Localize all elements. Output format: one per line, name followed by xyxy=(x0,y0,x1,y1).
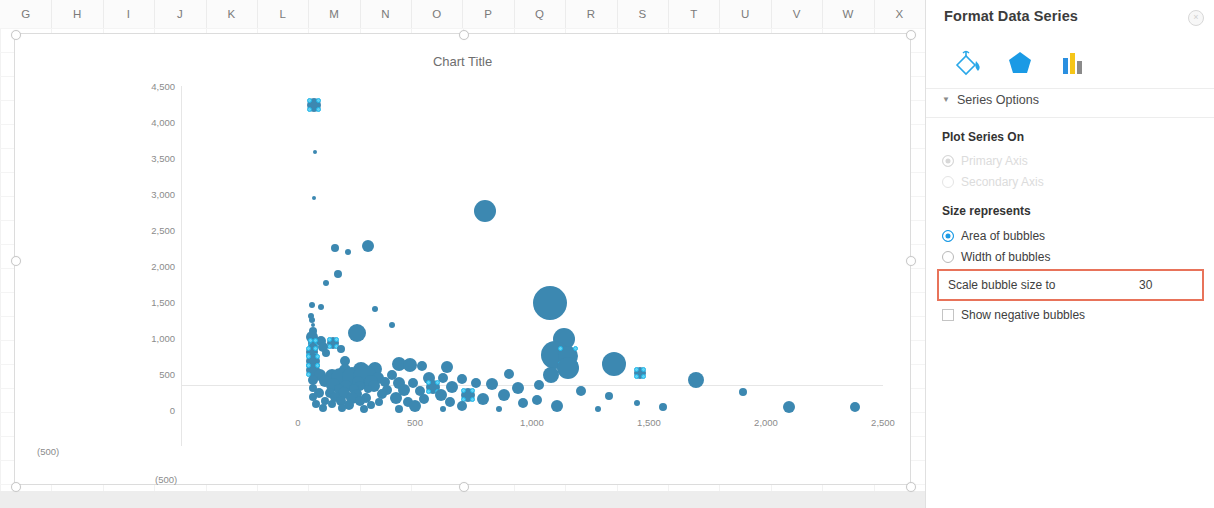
column-header-G[interactable]: G xyxy=(0,0,52,28)
close-icon[interactable]: × xyxy=(1188,10,1204,26)
chart-bubble[interactable] xyxy=(605,392,613,400)
column-header-I[interactable]: I xyxy=(103,0,155,28)
chart-bubble[interactable] xyxy=(602,352,626,376)
column-header-Q[interactable]: Q xyxy=(514,0,566,28)
resize-handle-mr[interactable] xyxy=(906,256,916,266)
chart-bubble[interactable] xyxy=(362,240,374,252)
chart-bubble[interactable] xyxy=(446,381,458,393)
column-header-V[interactable]: V xyxy=(771,0,823,28)
chart-bubble[interactable] xyxy=(850,402,860,412)
chart-bubble[interactable] xyxy=(313,150,317,154)
chart-bubble[interactable] xyxy=(486,378,498,390)
chart-title[interactable]: Chart Title xyxy=(15,54,910,69)
chart-bubble[interactable] xyxy=(576,386,586,396)
chart-bubble[interactable] xyxy=(372,306,378,312)
scale-bubble-size-field[interactable]: Scale bubble size to 30 xyxy=(937,269,1204,301)
chart-bubble[interactable] xyxy=(345,249,351,255)
chart-bubble[interactable] xyxy=(512,382,524,394)
chart-bubble[interactable] xyxy=(688,372,704,388)
chart-bubble[interactable] xyxy=(457,374,467,384)
chart-bubble[interactable] xyxy=(309,302,315,308)
chart-bubble[interactable] xyxy=(334,270,342,278)
chart-bubble[interactable] xyxy=(440,406,446,412)
chart-bubble[interactable] xyxy=(395,405,403,413)
chart-bubble[interactable] xyxy=(318,304,324,310)
chart-bubble[interactable] xyxy=(474,200,496,222)
column-header-K[interactable]: K xyxy=(206,0,258,28)
chart-bubble[interactable] xyxy=(331,244,339,252)
chart-bubble[interactable] xyxy=(634,400,640,406)
chart-bubble[interactable] xyxy=(390,392,402,404)
effects-icon[interactable] xyxy=(998,44,1042,84)
chart-bubble[interactable] xyxy=(367,401,375,409)
chart-bubble[interactable] xyxy=(504,369,514,379)
radio-primary-axis[interactable]: Primary Axis xyxy=(942,152,1028,170)
chart-bubble[interactable] xyxy=(441,361,453,373)
radio-secondary-axis[interactable]: Secondary Axis xyxy=(942,173,1044,191)
radio-area-of-bubbles[interactable]: Area of bubbles xyxy=(942,227,1045,245)
radio-width-of-bubbles[interactable]: Width of bubbles xyxy=(942,248,1050,266)
column-header-U[interactable]: U xyxy=(719,0,771,28)
column-header-H[interactable]: H xyxy=(51,0,103,28)
checkbox-show-negative-bubbles[interactable]: Show negative bubbles xyxy=(942,306,1085,324)
chart-bubble[interactable] xyxy=(518,398,528,408)
chart-bubble[interactable] xyxy=(783,401,795,413)
chart-bubble[interactable] xyxy=(419,394,429,404)
chart-bubble[interactable] xyxy=(498,389,510,401)
column-header-S[interactable]: S xyxy=(617,0,669,28)
chart-bubble[interactable] xyxy=(319,404,327,412)
chart-bubble[interactable] xyxy=(477,393,489,405)
chart-bubble[interactable] xyxy=(375,398,383,406)
chart-bubble[interactable] xyxy=(445,397,455,407)
chart-bubble[interactable] xyxy=(496,406,502,412)
resize-handle-br[interactable] xyxy=(906,482,916,492)
chart-plot-area[interactable]: 05001,0001,5002,0002,5003,0003,5004,0004… xyxy=(181,86,883,446)
column-header-M[interactable]: M xyxy=(308,0,360,28)
chart-bubble[interactable] xyxy=(534,380,544,390)
resize-handle-tc[interactable] xyxy=(459,30,469,40)
column-header-W[interactable]: W xyxy=(822,0,874,28)
chart-bubble[interactable] xyxy=(543,367,559,383)
series-options-section-header[interactable]: ▼Series Options xyxy=(942,93,1039,107)
chart-bubble[interactable] xyxy=(337,345,345,353)
column-header-T[interactable]: T xyxy=(668,0,720,28)
chart-bubble[interactable] xyxy=(323,280,329,286)
bubble-selection-handles[interactable] xyxy=(307,98,321,112)
chart-bubble[interactable] xyxy=(389,322,395,328)
chart-bubble[interactable] xyxy=(739,388,747,396)
chart-bubble[interactable] xyxy=(328,400,336,408)
chart-bubble[interactable] xyxy=(557,357,579,379)
column-header-R[interactable]: R xyxy=(565,0,617,28)
chart-bubble[interactable] xyxy=(417,361,427,371)
resize-handle-ml[interactable] xyxy=(11,256,21,266)
chart-bubble[interactable] xyxy=(409,400,421,412)
chart-bubble[interactable] xyxy=(403,358,417,372)
chart-bubble[interactable] xyxy=(322,349,330,357)
chart-bubble[interactable] xyxy=(533,286,567,320)
column-header-L[interactable]: L xyxy=(257,0,309,28)
chart-object[interactable]: Chart Title 05001,0001,5002,0002,5003,00… xyxy=(14,33,911,485)
chart-bubble[interactable] xyxy=(338,404,346,412)
chart-bubble[interactable] xyxy=(595,406,601,412)
bubble-selection-handles[interactable] xyxy=(461,388,475,402)
resize-handle-bc[interactable] xyxy=(459,482,469,492)
column-header-X[interactable]: X xyxy=(874,0,926,28)
chart-bubble[interactable] xyxy=(532,395,542,405)
chart-bubble[interactable] xyxy=(348,324,366,342)
resize-handle-tl[interactable] xyxy=(11,30,21,40)
chart-bubble[interactable] xyxy=(659,403,667,411)
column-header-J[interactable]: J xyxy=(154,0,206,28)
column-header-P[interactable]: P xyxy=(463,0,515,28)
chart-bubble[interactable] xyxy=(438,373,448,383)
resize-handle-tr[interactable] xyxy=(906,30,916,40)
series-options-icon[interactable] xyxy=(1050,44,1094,84)
resize-handle-bl[interactable] xyxy=(11,482,21,492)
scale-bubble-size-value[interactable]: 30 xyxy=(1139,271,1152,299)
column-header-N[interactable]: N xyxy=(360,0,412,28)
chart-bubble[interactable] xyxy=(551,400,563,412)
chart-bubble[interactable] xyxy=(360,405,368,413)
chart-bubble[interactable] xyxy=(471,378,481,388)
chart-bubble[interactable] xyxy=(457,401,467,411)
chart-bubble[interactable] xyxy=(312,196,316,200)
column-header-O[interactable]: O xyxy=(411,0,463,28)
